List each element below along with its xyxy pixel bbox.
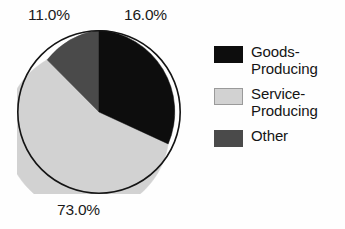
pie-label-service-producing: 73.0% <box>57 201 100 219</box>
legend-item-service-producing[interactable]: Service- Producing <box>214 86 342 119</box>
pie-label-other: 11.0% <box>28 6 70 24</box>
legend-label-service-producing: Service- Producing <box>251 86 318 119</box>
pie-chart-figure: 11.0% 16.0% 73.0% Goods- Producing Servi… <box>0 0 345 229</box>
pie-svg <box>17 30 181 194</box>
legend-swatch-service-producing <box>214 88 243 105</box>
chart-legend: Goods- Producing Service- Producing Othe… <box>214 44 342 156</box>
legend-item-other[interactable]: Other <box>214 128 342 147</box>
legend-swatch-other <box>214 130 243 147</box>
legend-label-other: Other <box>251 128 288 145</box>
legend-item-goods-producing[interactable]: Goods- Producing <box>214 44 342 77</box>
pie-chart-graphic <box>17 30 181 194</box>
legend-label-goods-producing: Goods- Producing <box>251 44 318 77</box>
legend-swatch-goods-producing <box>214 46 243 63</box>
pie-label-goods-producing: 16.0% <box>124 6 167 24</box>
